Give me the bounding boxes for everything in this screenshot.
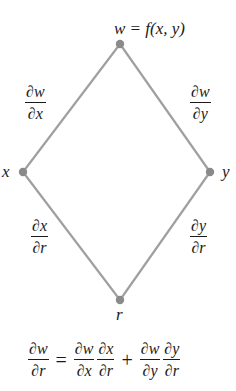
frac-denominator: ∂r	[190, 240, 206, 256]
frac-numerator: ∂y	[190, 218, 207, 234]
frac-bar	[74, 359, 95, 360]
frac-bar	[25, 102, 46, 103]
edge-label-dy-dr: ∂y ∂r	[190, 218, 207, 256]
node-label-r: r	[116, 306, 123, 323]
edges	[23, 44, 210, 300]
frac-denominator: ∂x	[27, 106, 44, 122]
frac-bar	[28, 359, 49, 360]
frac-numerator: ∂x	[97, 341, 114, 357]
frac-numerator: ∂w	[190, 84, 211, 100]
nodes	[19, 40, 214, 304]
term2-factor2: ∂y ∂r	[163, 341, 180, 379]
node-w	[116, 40, 124, 48]
frac-bar	[190, 236, 207, 237]
node-label-y: y	[222, 163, 230, 180]
edge-label-dw-dx: ∂w ∂x	[25, 84, 46, 122]
node-label-x: x	[2, 163, 10, 180]
frac-numerator: ∂w	[28, 341, 49, 357]
frac-denominator: ∂y	[142, 363, 159, 379]
node-x	[19, 168, 27, 176]
frac-denominator: ∂x	[76, 363, 93, 379]
frac-numerator: ∂w	[25, 84, 46, 100]
chain-rule-equation: ∂w ∂r = ∂w ∂x ∂x ∂r + ∂w ∂y ∂y ∂r	[28, 341, 180, 379]
frac-bar	[97, 359, 114, 360]
frac-denominator: ∂r	[31, 240, 47, 256]
frac-bar	[140, 359, 161, 360]
frac-bar	[163, 359, 180, 360]
term1-factor2: ∂x ∂r	[97, 341, 114, 379]
frac-numerator: ∂y	[163, 341, 180, 357]
chain-rule-diagram: w = f(x, y) x y r ∂w ∂x ∂w ∂y ∂x ∂r ∂y ∂…	[0, 0, 236, 391]
edge-label-dw-dy: ∂w ∂y	[190, 84, 211, 122]
frac-bar	[190, 102, 211, 103]
edge-label-dx-dr: ∂x ∂r	[31, 218, 48, 256]
equation-lhs: ∂w ∂r	[28, 341, 49, 379]
node-label-w: w = f(x, y)	[114, 20, 185, 37]
frac-denominator: ∂r	[30, 363, 46, 379]
term1-factor1: ∂w ∂x	[74, 341, 95, 379]
frac-numerator: ∂x	[31, 218, 48, 234]
node-y	[206, 168, 214, 176]
frac-numerator: ∂w	[140, 341, 161, 357]
frac-denominator: ∂y	[192, 106, 209, 122]
plus-sign: +	[121, 349, 132, 372]
frac-numerator: ∂w	[74, 341, 95, 357]
frac-denominator: ∂r	[98, 363, 114, 379]
frac-bar	[31, 236, 48, 237]
term2-factor1: ∂w ∂y	[140, 341, 161, 379]
equals-sign: =	[56, 349, 67, 372]
node-r	[116, 296, 124, 304]
tree-graph	[0, 0, 236, 391]
frac-denominator: ∂r	[164, 363, 180, 379]
